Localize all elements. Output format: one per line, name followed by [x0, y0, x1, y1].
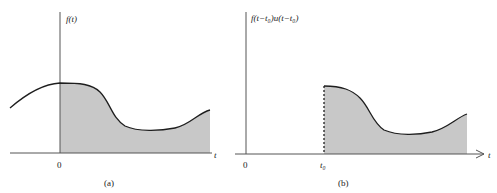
shaded-area-b [324, 86, 467, 154]
figure: f(t) t 0 (a) f(t−t₀)u(t−t₀) t 0 t₀ (b) [0, 0, 497, 193]
caption-b: (b) [338, 178, 349, 188]
panel-b: f(t−t₀)u(t−t₀) t 0 t₀ (b) [235, 12, 491, 188]
shaded-area-a [60, 83, 210, 153]
y-axis-label-b: f(t−t₀)u(t−t₀) [251, 13, 298, 23]
origin-label-a: 0 [57, 160, 62, 170]
x-axis-label-a: t [214, 150, 217, 160]
caption-a: (a) [104, 178, 114, 188]
origin-label-b: 0 [243, 160, 248, 170]
y-axis-label-a: f(t) [66, 14, 77, 24]
x-axis-label-b: t [488, 150, 491, 160]
panel-a: f(t) t 0 (a) [10, 12, 217, 188]
shift-label-t0: t₀ [320, 160, 326, 170]
